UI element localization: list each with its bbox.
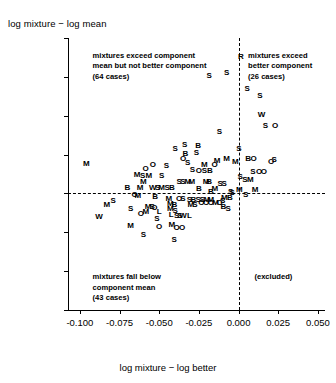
- data-point: M: [247, 176, 254, 184]
- annotation-line: mean but not better component: [93, 61, 207, 72]
- scatter-plot-figure: log mixture − log mean 0.080.060.040.020…: [0, 0, 336, 383]
- annotation-line: component mean: [93, 283, 161, 294]
- data-point: S: [243, 191, 248, 199]
- data-point: S: [177, 212, 182, 220]
- data-point: S: [236, 145, 241, 153]
- data-point: M: [223, 155, 230, 163]
- y-tick: [64, 271, 68, 272]
- data-point: M: [188, 178, 195, 186]
- data-point: O: [150, 161, 156, 169]
- data-point: S: [128, 205, 133, 213]
- annotation-line: mixtures exceed: [248, 51, 312, 62]
- x-tick-label: 0.000: [227, 317, 251, 328]
- x-tick: [278, 310, 279, 314]
- y-tick: [64, 77, 68, 78]
- annotation-line: (43 cases): [93, 293, 161, 304]
- annotation-line: mixtures fall below: [93, 272, 161, 283]
- data-point: B: [207, 167, 213, 175]
- data-point: O: [156, 223, 162, 231]
- data-point: O: [250, 155, 256, 163]
- data-point: S: [222, 180, 227, 188]
- data-point: S: [111, 197, 116, 205]
- lower-right-note: (excluded): [254, 272, 292, 283]
- data-point: S: [159, 172, 164, 180]
- data-point: B: [152, 193, 158, 201]
- x-tick-label: 0.050: [306, 317, 330, 328]
- data-point: S: [257, 92, 262, 100]
- data-point: L: [187, 212, 192, 220]
- x-tick: [80, 310, 81, 314]
- upper-right-note: mixtures exceedbetter component(26 cases…: [248, 51, 312, 83]
- data-point: M: [236, 186, 243, 194]
- data-point: M: [83, 160, 90, 168]
- data-point: S: [226, 205, 231, 213]
- y-tick: [64, 310, 68, 311]
- x-tick: [199, 310, 200, 314]
- data-point: M: [142, 208, 149, 216]
- data-point: B: [195, 142, 201, 150]
- data-point: S: [245, 85, 250, 93]
- x-axis-label: log mixture − log better: [0, 362, 336, 373]
- x-tick: [159, 310, 160, 314]
- data-point: S: [164, 162, 169, 170]
- data-point: O: [268, 158, 274, 166]
- upper-left-note: mixtures exceed componentmean but not be…: [93, 51, 207, 83]
- x-tick-label: -0.050: [146, 317, 173, 328]
- data-point: L: [169, 211, 174, 219]
- data-point: S: [190, 166, 195, 174]
- x-axis-line: [68, 310, 325, 311]
- data-point: S: [141, 231, 146, 239]
- data-point: R: [238, 53, 244, 61]
- x-tick: [239, 310, 240, 314]
- y-tick: [64, 116, 68, 117]
- plot-area: 0.080.060.040.020.00-0.02-0.04-0.06 -0.1…: [68, 38, 325, 310]
- y-axis-line: [68, 38, 69, 310]
- lower-left-note: mixtures fall belowcomponent mean(43 cas…: [93, 272, 161, 304]
- x-tick-label: -0.025: [185, 317, 212, 328]
- data-point: S: [224, 69, 229, 77]
- annotation-line: better component: [248, 61, 312, 72]
- x-tick: [318, 310, 319, 314]
- annotation-line: (excluded): [254, 272, 292, 283]
- data-point: M: [232, 158, 239, 166]
- data-point: S: [180, 195, 185, 203]
- data-point: B: [125, 184, 131, 192]
- data-point: S: [217, 128, 222, 136]
- data-point: M: [127, 222, 134, 230]
- data-point: O: [261, 168, 267, 176]
- annotation-line: (64 cases): [93, 72, 207, 83]
- x-tick-label: -0.075: [106, 317, 133, 328]
- data-point: M: [252, 186, 259, 194]
- data-point: M: [134, 192, 141, 200]
- annotation-line: mixtures exceed component: [93, 51, 207, 62]
- data-point: S: [172, 236, 177, 244]
- data-point: W: [95, 213, 103, 221]
- data-point: O: [272, 122, 278, 130]
- annotation-line: (26 cases): [248, 72, 312, 83]
- data-point: S: [263, 122, 268, 130]
- data-point: S: [192, 201, 197, 209]
- x-tick-label: 0.025: [266, 317, 290, 328]
- x-tick: [120, 310, 121, 314]
- y-tick: [64, 232, 68, 233]
- data-point: B: [196, 185, 202, 193]
- data-point: O: [179, 224, 185, 232]
- data-point: W: [258, 111, 266, 119]
- data-point: B: [169, 184, 175, 192]
- data-point: S: [207, 72, 212, 80]
- y-tick: [64, 38, 68, 39]
- data-point: S: [172, 145, 177, 153]
- y-tick: [64, 155, 68, 156]
- data-point: M: [104, 201, 111, 209]
- y-axis-label: log mixture − log mean: [8, 18, 107, 29]
- x-tick-label: -0.100: [66, 317, 93, 328]
